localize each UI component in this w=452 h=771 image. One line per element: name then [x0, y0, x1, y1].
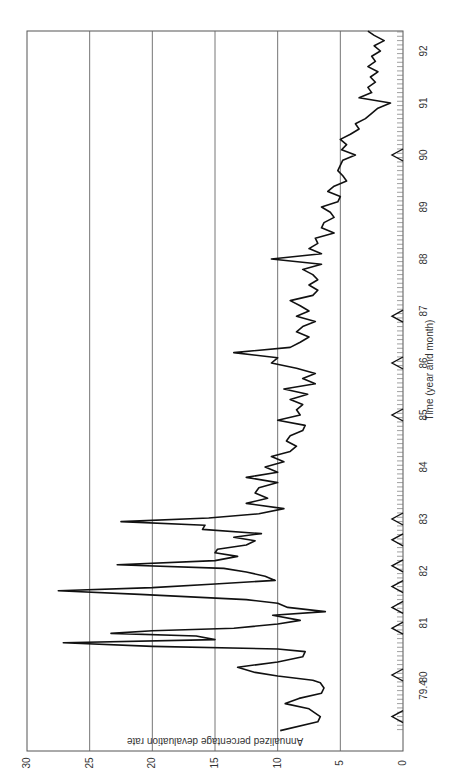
value-tick-label: 15: [209, 757, 220, 769]
value-tick-label: 0: [397, 760, 408, 766]
event-marker-icon: [392, 310, 403, 322]
time-tick-label: 89: [418, 201, 429, 213]
devaluation-rate-chart: 051015202530 79.480818283848586878889909…: [0, 0, 452, 771]
event-marker-icon: [392, 357, 403, 369]
time-tick-label: 91: [418, 97, 429, 109]
time-tick-label: 84: [418, 461, 429, 473]
event-marker-icon: [392, 669, 403, 681]
time-tick-label: 82: [418, 565, 429, 577]
event-markers: [392, 149, 403, 723]
time-tick-label: 83: [418, 513, 429, 525]
time-tick-label: 80: [418, 671, 429, 683]
event-marker-icon: [392, 601, 403, 613]
time-tick-label: 81: [418, 617, 429, 629]
event-marker-icon: [392, 513, 403, 525]
time-tick-label: 90: [418, 149, 429, 161]
value-tick-label: 25: [84, 757, 95, 769]
time-tick-label: 88: [418, 253, 429, 265]
value-tick-label: 10: [272, 757, 283, 769]
event-marker-icon: [392, 622, 403, 634]
event-marker-icon: [392, 534, 403, 546]
time-tick-label: 87: [418, 305, 429, 317]
time-tick-label: 92: [418, 45, 429, 57]
event-marker-icon: [392, 149, 403, 161]
time-axis-label: Time (year and month): [424, 320, 435, 421]
event-marker-icon: [392, 409, 403, 421]
value-tick-label: 30: [21, 757, 32, 769]
value-axis-ticks: 051015202530: [21, 757, 408, 769]
gridlines: [90, 31, 341, 751]
event-marker-icon: [392, 560, 403, 572]
value-tick-label: 20: [146, 757, 157, 769]
value-tick-label: 5: [334, 760, 345, 766]
value-axis-label: Annualized percentage devaluation rate: [126, 736, 303, 747]
